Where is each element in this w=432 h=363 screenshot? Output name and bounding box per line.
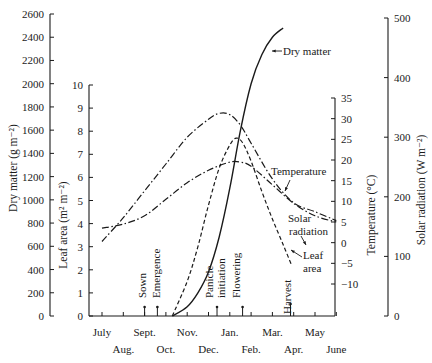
tick-label: 1600: [22, 124, 45, 136]
label-dry-matter: Dry matter: [283, 45, 331, 57]
event-marker-dot: [241, 306, 244, 309]
tick-label: 4: [78, 218, 84, 230]
event-emergence: Emergence: [150, 249, 162, 298]
month-label: July: [93, 326, 112, 338]
month-label: Jan.: [221, 326, 239, 338]
tick-label: 400: [28, 264, 45, 276]
label-temperature: Temperature: [271, 165, 327, 177]
tick-label: 2400: [22, 31, 45, 43]
axes: 0200400600800100012001400160018002000220…: [22, 8, 411, 355]
tick-label: 200: [28, 287, 45, 299]
tick-label: 0: [341, 237, 347, 249]
month-label: Feb.: [241, 343, 261, 355]
event-marker-dot: [143, 306, 146, 309]
tick-label: 10: [72, 79, 84, 91]
solar-axis-title: Solar radiation (W m⁻²): [415, 135, 428, 246]
tick-label: −5: [341, 257, 353, 269]
tick-label: 200: [394, 191, 411, 203]
month-label: Apr.: [284, 343, 304, 355]
arrow-head: [272, 49, 276, 52]
event-panicle-2: initiation: [215, 258, 227, 298]
label-leaf-2: area: [303, 262, 321, 274]
dry-matter-axis-title: Dry matter (g m⁻²): [7, 124, 20, 212]
tick-label: 5: [78, 195, 84, 207]
month-label: May: [305, 326, 326, 338]
tick-label: 7: [78, 148, 84, 160]
tick-label: 600: [28, 240, 45, 252]
tick-label: 8: [78, 125, 84, 137]
tick-label: 3: [78, 241, 84, 253]
tick-label: 300: [394, 131, 411, 143]
month-label: Sept.: [133, 326, 156, 338]
tick-label: 9: [78, 102, 84, 114]
event-marker-dot: [156, 306, 159, 309]
leaf-area-axis-title: Leaf area (m² m⁻²): [57, 181, 70, 269]
event-marker-dot: [216, 306, 219, 309]
month-label: Aug.: [112, 343, 134, 355]
tick-label: 6: [78, 171, 84, 183]
tick-label: 500: [394, 12, 411, 24]
event-flowering: Flowering: [230, 252, 242, 298]
series-dry-matter: [172, 28, 283, 316]
crop-growth-chart: 0200400600800100012001400160018002000220…: [0, 0, 432, 363]
tick-label: 100: [394, 250, 411, 262]
tick-label: 2200: [22, 54, 45, 66]
label-solar-2: radiation: [289, 225, 329, 237]
month-label: Nov.: [177, 326, 198, 338]
tick-label: 5: [341, 216, 347, 228]
label-leaf-1: Leaf: [303, 249, 323, 261]
tick-label: 10: [341, 195, 353, 207]
tick-label: 30: [341, 113, 353, 125]
tick-label: 25: [341, 133, 353, 145]
tick-label: 2000: [22, 78, 45, 90]
tick-label: 1200: [22, 171, 45, 183]
tick-label: 1400: [22, 147, 45, 159]
temperature-axis-title: Temperature (°C): [365, 174, 378, 255]
event-sown: Sown: [136, 272, 148, 298]
tick-label: 0: [394, 310, 400, 322]
tick-label: 15: [341, 175, 353, 187]
tick-label: 1: [78, 287, 84, 299]
tick-label: 800: [28, 217, 45, 229]
tick-label: 0: [78, 310, 84, 322]
month-label: Mar.: [262, 326, 283, 338]
event-harvest: Harvest: [281, 280, 293, 314]
tick-label: −10: [341, 278, 359, 290]
tick-label: 35: [341, 92, 353, 104]
tick-label: 2600: [22, 8, 45, 20]
tick-label: 20: [341, 154, 353, 166]
month-label: Oct.: [157, 343, 176, 355]
event-panicle-1: Panicle: [203, 266, 215, 298]
tick-label: 0: [39, 310, 45, 322]
tick-label: 1000: [22, 194, 45, 206]
tick-label: 400: [394, 72, 411, 84]
tick-label: 1800: [22, 101, 45, 113]
label-solar-1: Solar: [288, 212, 312, 224]
tick-label: 2: [78, 264, 84, 276]
month-label: June: [326, 343, 346, 355]
month-label: Dec.: [198, 343, 219, 355]
